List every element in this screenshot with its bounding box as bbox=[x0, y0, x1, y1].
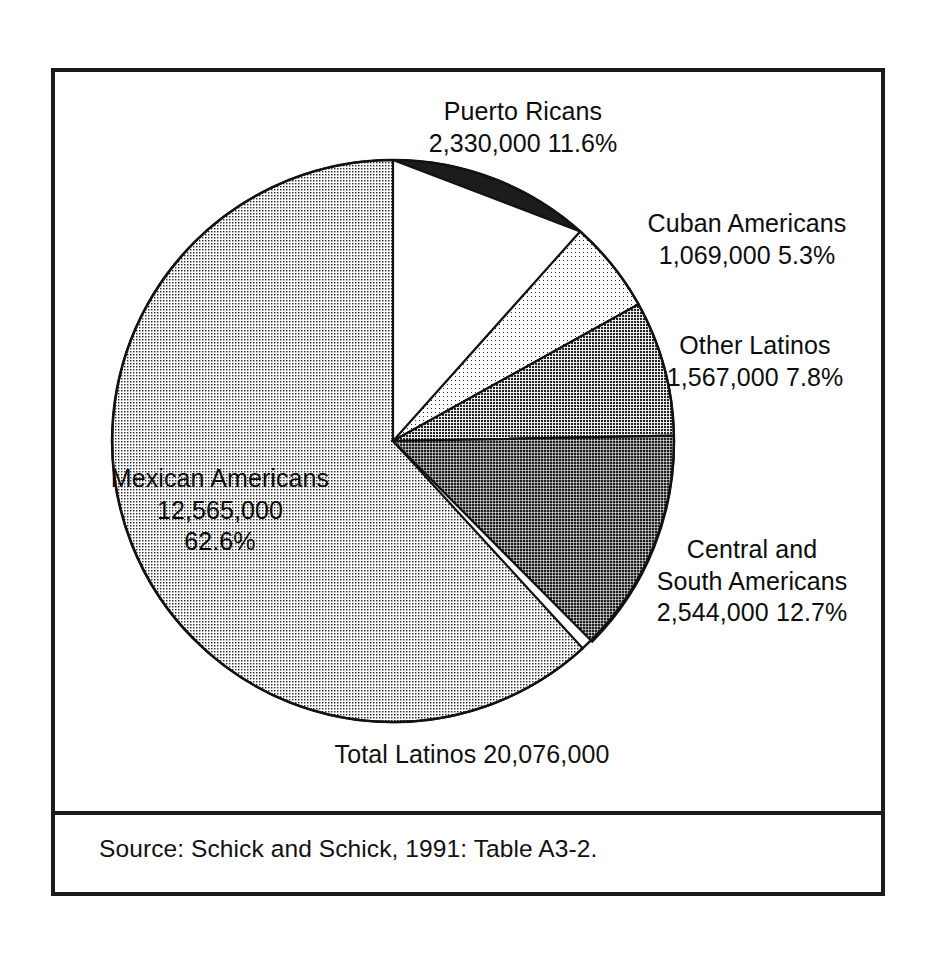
total-latinos-line: Total Latinos 20,076,000 bbox=[55, 740, 889, 769]
label-cuban-americans: Cuban Americans 1,069,000 5.3% bbox=[607, 208, 887, 271]
source-region: Source: Schick and Schick, 1991: Table A… bbox=[55, 815, 881, 892]
label-puerto-ricans-name: Puerto Ricans bbox=[393, 96, 653, 128]
label-puerto-ricans: Puerto Ricans 2,330,000 11.6% bbox=[393, 96, 653, 159]
label-mexican-americans: Mexican Americans 12,565,000 62.6% bbox=[65, 463, 375, 558]
label-other-latinos-name: Other Latinos bbox=[621, 330, 889, 362]
label-mexican-americans-name: Mexican Americans bbox=[65, 463, 375, 495]
chart-region: Mexican Americans 12,565,000 62.6% Puert… bbox=[55, 72, 881, 815]
label-central-south-americans-name-line2: South Americans bbox=[615, 566, 889, 598]
pie-chart: Mexican Americans 12,565,000 62.6% bbox=[55, 72, 889, 815]
label-cuban-americans-name: Cuban Americans bbox=[607, 208, 887, 240]
label-central-south-americans-name-line1: Central and bbox=[615, 534, 889, 566]
pie-slice-puerto-ricans[interactable] bbox=[393, 160, 580, 231]
label-cuban-americans-value: 1,069,000 5.3% bbox=[607, 240, 887, 272]
pie-svg bbox=[55, 72, 889, 815]
label-central-south-americans: Central and South Americans 2,544,000 12… bbox=[615, 534, 889, 629]
label-other-latinos-value: 1,567,000 7.8% bbox=[621, 362, 889, 394]
label-puerto-ricans-value: 2,330,000 11.6% bbox=[393, 128, 653, 160]
label-mexican-americans-value: 12,565,000 bbox=[65, 495, 375, 527]
figure-frame: Mexican Americans 12,565,000 62.6% Puert… bbox=[51, 68, 885, 896]
label-mexican-americans-percent: 62.6% bbox=[65, 526, 375, 558]
label-other-latinos: Other Latinos 1,567,000 7.8% bbox=[621, 330, 889, 393]
label-central-south-americans-value: 2,544,000 12.7% bbox=[615, 597, 889, 629]
source-note: Source: Schick and Schick, 1991: Table A… bbox=[99, 835, 597, 863]
